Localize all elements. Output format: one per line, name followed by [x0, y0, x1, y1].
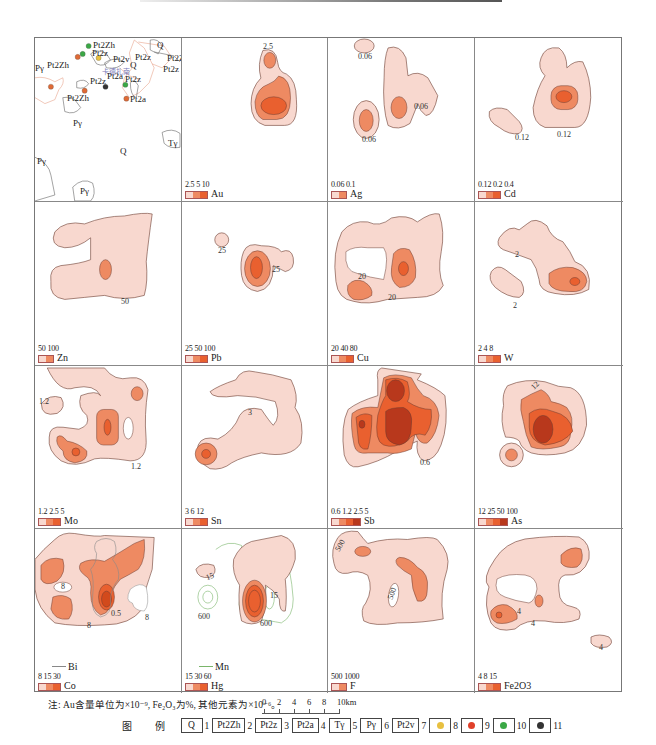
- legend-mo: 1.2 2.5 5 Mo: [38, 507, 78, 526]
- line-key-bi: Bi: [52, 662, 77, 671]
- element-label: Au: [211, 189, 223, 199]
- sn-contour-map: [182, 366, 327, 528]
- legend-item-green-dot: 10: [493, 718, 527, 733]
- zn-contour-map: [35, 202, 181, 365]
- element-label: Fe2O3: [504, 681, 531, 691]
- geo-label: Q: [157, 40, 164, 50]
- legend-item-yellow-dot: 8: [429, 718, 458, 733]
- red-dot-icon: [468, 722, 475, 729]
- geo-label: Pγ: [80, 186, 89, 196]
- element-label: F: [350, 681, 356, 691]
- legend-item-pt2a: Pt2a4: [292, 718, 326, 733]
- legend-item-black-dot: 11: [529, 718, 562, 733]
- contour-label: 0.06: [414, 102, 428, 111]
- panel-sb: 0.6 0.6 1.2 2.5 5 Sb: [328, 366, 475, 529]
- legend-as: 12 25 50 100 As: [478, 507, 522, 526]
- contour-label: 20: [388, 293, 396, 302]
- element-label: Hg: [211, 681, 223, 691]
- fe2o3-contour-map: [475, 529, 623, 693]
- element-label: Pb: [211, 353, 222, 363]
- sb-contour-map: [328, 366, 474, 528]
- unit-note: 注: Au含量单位为×10⁻⁹, Fe₂O₃为%, 其他元素为×10⁻⁶。: [48, 697, 281, 711]
- contour-label: 8: [145, 613, 149, 622]
- contour-label: 0.12: [515, 133, 529, 142]
- legend-item-q: Q1: [181, 718, 210, 733]
- contour-label: 4: [531, 619, 535, 628]
- mo-contour-map: [35, 366, 181, 528]
- geo-label: Pt2z: [135, 52, 151, 62]
- geo-label: Pt2a: [107, 71, 123, 81]
- element-label: Co: [64, 681, 76, 691]
- legend-fe2o3: 4 8 15 Fe2O3: [478, 672, 531, 691]
- scale-tick: 2: [277, 697, 292, 707]
- scale-tick: 4: [292, 697, 307, 707]
- panel-cd: 0.12 0.12 0.12 0.2 0.4 Cd: [475, 38, 623, 202]
- panel-hg-mn: 15 15 600 600 Mn 15 30 60 Hg: [182, 529, 328, 693]
- contour-label: 0.06: [358, 52, 372, 61]
- legend-au: 2.5 5 10 Au: [185, 180, 223, 199]
- panel-cu: 20 20 20 40 80 Cu: [328, 202, 475, 366]
- panel-au: 2.5 2.5 5 10 Au: [182, 38, 328, 202]
- geo-label: Pt2Zh: [47, 60, 69, 70]
- legend-item-pt2zh: Pt2Zh2: [212, 718, 252, 733]
- element-label: As: [511, 516, 522, 526]
- as-contour-map: [475, 366, 623, 528]
- contour-label: 0.12: [557, 130, 571, 139]
- geo-label: Q: [130, 60, 137, 70]
- ag-contour-map: [328, 38, 474, 201]
- element-label: Cd: [504, 189, 516, 199]
- black-dot-icon: [537, 722, 544, 729]
- page-header-rule: [140, 0, 502, 2]
- w-contour-map: [475, 202, 623, 365]
- legend-item-tgamma: Tγ5: [329, 718, 358, 733]
- panel-sn: 3 3 6 12 Sn: [182, 366, 328, 529]
- legend-title: 图 例: [122, 718, 175, 733]
- contour-label: 50: [121, 297, 129, 306]
- panel-f: 500 500 500 1000 F: [328, 529, 475, 693]
- geo-label: Pγ: [73, 118, 82, 128]
- contour-label: 2.5: [263, 42, 273, 51]
- cd-contour-map: [475, 38, 623, 201]
- geo-label: Pt2z: [125, 74, 141, 84]
- panel-mo: 1.2 1.2 1.2 2.5 5 Mo: [35, 366, 182, 529]
- pb-contour-map: [182, 202, 327, 365]
- legend-zn: 50 100 Zn: [38, 344, 68, 363]
- contour-label: 4: [517, 607, 521, 616]
- legend-item-pt2z: Pt2z3: [255, 718, 289, 733]
- geo-label: Pt2a: [130, 94, 146, 104]
- f-contour-map: [328, 529, 474, 693]
- panel-pb: 25 25 25 50 100 Pb: [182, 202, 328, 366]
- au-contour-map: [182, 38, 327, 201]
- element-label: Sb: [364, 516, 375, 526]
- element-label: Mo: [64, 516, 78, 526]
- contour-label: 600: [260, 619, 272, 628]
- contour-label: 0.6: [420, 458, 430, 467]
- legend-item-red-dot: 9: [461, 718, 490, 733]
- geochemical-map-grid: 卡德扎南 Pt2Zh Pt2z Pt2v Pt2z Q Pt2Zh Pγ Pt2…: [34, 37, 622, 692]
- legend-sn: 3 6 12 Sn: [185, 507, 222, 526]
- element-label: Ag: [350, 189, 362, 199]
- contour-label: 25: [218, 246, 226, 255]
- legend-item-pgamma: Pγ6: [360, 718, 389, 733]
- line-key-mn: Mn: [199, 662, 229, 671]
- contour-label: 8: [61, 582, 65, 591]
- panel-co-bi: 8 8 0.5 8 Bi 8 15 30 Co: [35, 529, 182, 693]
- contour-label: 0.06: [362, 135, 376, 144]
- contour-label: 3: [248, 408, 252, 417]
- element-label: W: [504, 353, 513, 363]
- geo-label: Pγ: [35, 63, 44, 73]
- legend-cd: 0.12 0.2 0.4 Cd: [478, 180, 516, 199]
- legend-f: 500 1000 F: [331, 672, 359, 691]
- contour-label: 20: [358, 272, 366, 281]
- geo-label: Pt2Zh: [167, 53, 182, 63]
- element-label: Cu: [357, 353, 369, 363]
- contour-label: 1.2: [131, 462, 141, 471]
- contour-label: 8: [87, 621, 91, 630]
- panel-ag: 0.06 0.06 0.06 0.06 0.1 Ag: [328, 38, 475, 202]
- geo-label: Pγ: [37, 156, 46, 166]
- scale-bar: 0 2 4 6 8 10km: [262, 697, 352, 714]
- geo-label: Tγ: [168, 138, 177, 148]
- geo-label: Pt2Zh: [67, 93, 89, 103]
- line-element-label: Mn: [215, 662, 229, 671]
- legend-sb: 0.6 1.2 2.5 5 Sb: [331, 507, 375, 526]
